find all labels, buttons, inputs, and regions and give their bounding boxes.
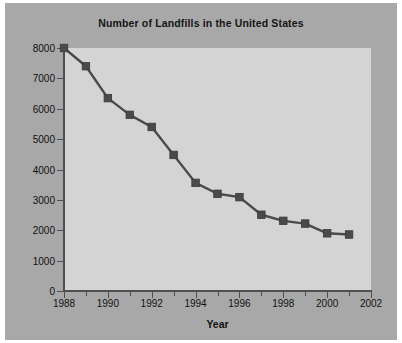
data-point-marker [301, 220, 309, 228]
series-polyline [64, 48, 349, 235]
data-point-marker [60, 44, 68, 52]
data-point-marker [236, 193, 244, 201]
data-point-marker [214, 190, 222, 198]
chart-screenshot: Number of Landfills in the United States… [0, 0, 402, 343]
data-point-marker [280, 217, 288, 225]
data-point-marker [323, 230, 331, 238]
data-point-marker [258, 211, 266, 219]
data-point-marker [192, 179, 200, 187]
data-point-marker [170, 151, 178, 159]
data-point-marker [345, 231, 353, 239]
data-point-marker [82, 62, 90, 70]
chart-figure: Number of Landfills in the United States… [5, 3, 397, 340]
data-series-line [5, 3, 397, 340]
data-point-marker [148, 123, 156, 131]
data-point-marker [126, 111, 134, 119]
data-point-marker [104, 94, 112, 102]
series-markers [60, 44, 353, 238]
x-axis-title: Year [64, 318, 371, 330]
